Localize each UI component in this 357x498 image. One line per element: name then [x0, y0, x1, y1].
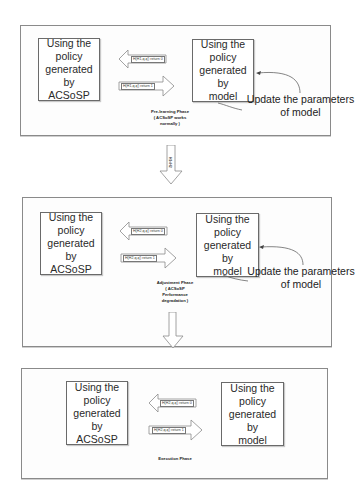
box-line: policy — [222, 395, 283, 408]
acsosp-policy-box: Using the policy generated by ACSoSP — [40, 212, 102, 275]
box-line: generated by — [222, 408, 283, 434]
update-parameters-label: Update the parameters of model — [243, 93, 357, 119]
box-line: Using the — [39, 37, 99, 50]
update-line: Update the parameters — [245, 265, 357, 278]
box-line: Using the — [222, 382, 283, 395]
phase-line: degradation ) — [145, 298, 205, 304]
phase-line: Execution Phase — [145, 456, 205, 462]
update-parameters-label: Update the parameters of model — [245, 265, 357, 291]
arrow-left-label: H(H2,q,q') return 0 — [131, 228, 165, 235]
box-line: policy — [39, 50, 99, 63]
acsosp-policy-box: Using the policy generated by ACSoSP — [66, 381, 128, 445]
box-line: Using the — [67, 381, 127, 394]
box-line: generated by — [39, 63, 99, 89]
update-line: of model — [243, 106, 357, 119]
box-line: Using the — [193, 38, 253, 51]
phase-label: Execution Phase — [145, 456, 205, 462]
box-line: model — [222, 434, 283, 447]
box-line: ACSoSP — [39, 89, 99, 102]
box-line: generated by — [41, 237, 101, 263]
box-line: Using the — [197, 213, 258, 226]
box-line: policy — [41, 224, 101, 237]
arrow-right-label: H(H1,q,q') return 1 — [121, 83, 155, 90]
box-line: generated by — [67, 407, 127, 433]
arrow-right-label: H(H2,q,q') return 1 — [123, 255, 157, 262]
down-arrow-icon — [162, 312, 184, 350]
update-line: Update the parameters — [243, 93, 357, 106]
acsosp-policy-box: Using the policy generated by ACSoSP — [38, 38, 100, 101]
arrow-right-label: H(H2,q,q') return 1 — [152, 427, 186, 434]
update-line: of model — [245, 278, 357, 291]
box-line: Using the — [41, 211, 101, 224]
box-line: policy — [67, 394, 127, 407]
transition-label: H1<H2 — [168, 157, 172, 168]
box-line: ACSoSP — [67, 433, 127, 446]
arrow-left-label: H(H2,q,q') return 0 — [160, 400, 194, 407]
box-line: ACSoSP — [41, 263, 101, 276]
arrow-left-label: H(H1,q,q') return 0 — [131, 56, 165, 63]
model-policy-box: Using the policy generated by model — [221, 382, 284, 446]
phase-line: normally ) — [140, 121, 200, 127]
